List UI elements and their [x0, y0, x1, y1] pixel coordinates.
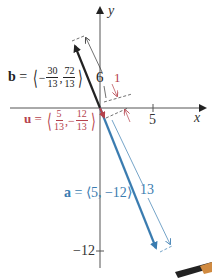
b-equals: = [19, 69, 27, 84]
b-x-numerator: 30 [46, 66, 58, 78]
u-x-denominator: 13 [54, 121, 64, 132]
u-y-numerator: 12 [76, 109, 88, 121]
y-tick-label: −12 [73, 244, 95, 258]
left-angle-bracket: ⟨ [47, 111, 52, 131]
x-axis-label: x [194, 111, 200, 125]
right-angle-bracket: ⟩ [78, 68, 83, 88]
x-tick-label: 5 [149, 113, 156, 127]
u-length-dimension [104, 84, 132, 122]
b-x-denominator: 13 [47, 78, 57, 89]
b-x-sign: − [39, 71, 46, 85]
u-length-label: 1 [114, 71, 121, 84]
u-equals: = [34, 111, 41, 126]
u-y-fraction: 1213 [76, 109, 88, 132]
u-vector-equation: u = ⟨513,−1213⟩ [24, 109, 97, 132]
a-length-dimension [106, 108, 172, 252]
b-vector-equation: b = ⟨−3013,7213⟩ [8, 66, 84, 89]
a-vector-equation: a = ⟨5, −12⟩ [64, 186, 132, 200]
pen-decoration [175, 262, 212, 278]
left-angle-bracket: ⟨ [32, 68, 37, 88]
b-x-fraction: 3013 [46, 66, 58, 89]
b-vector-name: b [8, 69, 16, 84]
u-vector-name: u [24, 111, 31, 126]
y-axis-label: y [108, 4, 114, 18]
u-y-denominator: 13 [77, 121, 87, 132]
right-angle-bracket: ⟩ [90, 111, 95, 131]
b-length-label: 6 [96, 70, 104, 85]
b-y-numerator: 72 [63, 66, 75, 78]
a-length-label: 13 [140, 183, 154, 197]
b-y-fraction: 7213 [63, 66, 75, 89]
axes [10, 8, 205, 268]
u-x-fraction: 513 [54, 109, 64, 132]
a-vector-expression: = ⟨5, −12⟩ [75, 185, 132, 200]
vector-diagram [0, 0, 212, 278]
b-y-denominator: 13 [64, 78, 74, 89]
vector-a-arrow [100, 108, 156, 248]
u-x-numerator: 5 [56, 109, 63, 121]
a-vector-name: a [64, 185, 71, 200]
u-y-sign: − [68, 114, 75, 128]
